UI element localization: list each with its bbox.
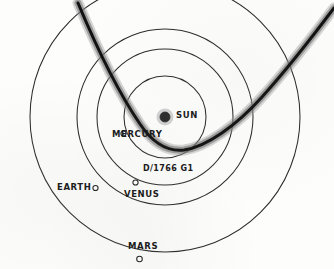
mercury-label: MERCURY [112,129,162,139]
venus-label: VENUS [124,189,160,199]
orbit-circles [30,0,300,252]
comet-orbit-diagram: SUN MERCURY VENUS EARTH MARS D/1766 G1 [0,0,334,269]
sun-label: SUN [176,110,198,120]
sun-body-group [157,109,174,126]
earth-label: EARTH [57,182,91,192]
diagram-canvas [0,0,334,269]
comet-designation-label: D/1766 G1 [143,164,193,173]
mars-marker [137,256,143,262]
mars-orbit-circle [30,0,300,252]
venus-marker [133,180,138,185]
earth-marker [93,185,98,190]
mars-label: MARS [128,241,158,251]
sun-icon [160,112,170,122]
